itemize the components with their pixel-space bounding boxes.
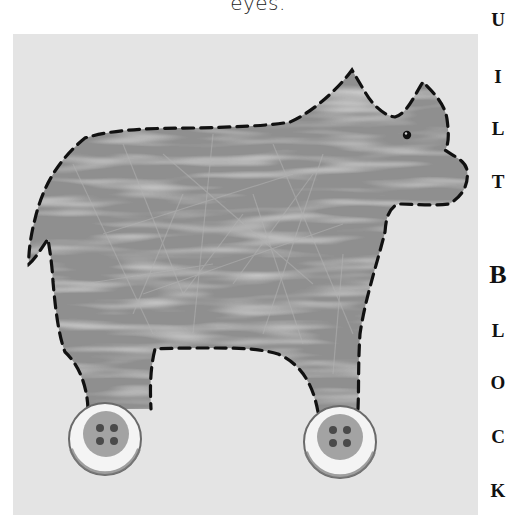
side-title-quilt-block: U I L T B L O C K bbox=[480, 0, 516, 515]
side-letter: B bbox=[480, 262, 516, 288]
side-letter: I bbox=[480, 67, 516, 87]
side-letter: C bbox=[480, 427, 516, 447]
quilt-block-panel bbox=[13, 34, 478, 515]
rhino-illustration bbox=[13, 34, 478, 515]
side-letter: K bbox=[480, 481, 516, 501]
side-letter: L bbox=[480, 321, 516, 341]
caption-text: eyes. bbox=[0, 0, 516, 15]
eye-icon bbox=[403, 131, 411, 139]
side-letter: L bbox=[480, 119, 516, 139]
side-letter: T bbox=[480, 172, 516, 192]
side-letter: O bbox=[480, 373, 516, 393]
side-letter: U bbox=[480, 10, 516, 30]
left-wheel-button bbox=[69, 403, 141, 475]
right-wheel-button bbox=[304, 406, 376, 478]
